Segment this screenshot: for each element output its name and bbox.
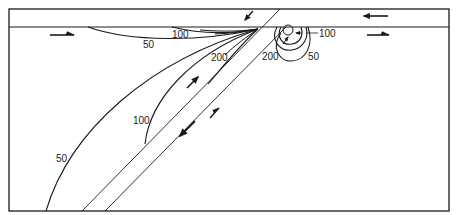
label-50-surface: 50 [143,39,155,50]
label-200-right: 200 [262,51,279,62]
label-200-left: 200 [211,52,228,63]
arrow-down-left-icon [245,11,253,20]
fault-zone-diagram: 50 100 200 100 50 100 200 50 [0,0,458,215]
label-100-surface: 100 [172,29,189,40]
arrow-up-right-icon [283,37,288,44]
label-50-right: 50 [308,51,320,62]
shear-arrows [50,11,389,136]
label-50-deep: 50 [56,153,68,164]
arrow-up-right-icon [187,77,198,88]
label-100-right: 100 [319,28,336,39]
label-100-deep: 100 [133,115,150,126]
arrow-down-left-icon [180,121,195,136]
arrow-up-right-icon [210,108,219,118]
diagram-frame [9,9,449,211]
